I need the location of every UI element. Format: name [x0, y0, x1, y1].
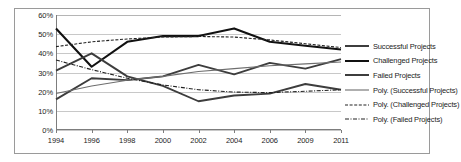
x-tick-label: 1994 — [48, 136, 64, 145]
x-tick-label: 2006 — [262, 136, 278, 145]
legend-line-icon — [345, 41, 369, 51]
x-tick-label: 1996 — [83, 136, 99, 145]
legend-label: Challenged Projects — [373, 56, 437, 65]
x-tick-mark — [234, 130, 235, 133]
legend-item[interactable]: Failed Projects — [345, 68, 461, 83]
y-tick-label: 10% — [38, 106, 53, 115]
x-tick-mark — [270, 130, 271, 133]
legend-item[interactable]: Poly. (Failed Projects) — [345, 112, 461, 127]
x-tick-label: 2002 — [190, 136, 206, 145]
x-tick-mark — [163, 130, 164, 133]
legend-line-icon — [345, 100, 369, 110]
plot-area: 0%10%20%30%40%50%60% 1994199619982000200… — [56, 15, 341, 130]
legend-label: Poly. (Failed Projects) — [373, 115, 442, 124]
legend-line-icon — [345, 56, 369, 66]
x-tick-mark — [305, 130, 306, 133]
plot-wrapper: 0%10%20%30%40%50%60% 1994199619982000200… — [15, 9, 345, 155]
legend-label: Failed Projects — [373, 71, 420, 80]
y-tick-label: 0% — [42, 126, 53, 135]
y-tick-label: 60% — [38, 11, 53, 20]
legend-label: Successful Projects — [373, 42, 436, 51]
series-line — [56, 59, 341, 99]
legend-line-icon — [345, 85, 369, 95]
y-tick-label: 40% — [38, 49, 53, 58]
x-tick-label: 2000 — [155, 136, 171, 145]
x-tick-mark — [92, 130, 93, 133]
x-tick-label: 2004 — [226, 136, 242, 145]
y-tick-label: 20% — [38, 87, 53, 96]
chart-legend: Successful ProjectsChallenged ProjectsFa… — [345, 39, 461, 127]
x-tick-label: 2009 — [297, 136, 313, 145]
legend-item[interactable]: Successful Projects — [345, 39, 461, 54]
chart-frame: 0%10%20%30%40%50%60% 1994199619982000200… — [14, 8, 430, 154]
x-tick-mark — [199, 130, 200, 133]
legend-item[interactable]: Poly. (Successful Projects) — [345, 83, 461, 98]
x-tick-label: 1998 — [119, 136, 135, 145]
y-tick-label: 30% — [38, 68, 53, 77]
series-line — [56, 28, 341, 66]
x-tick-mark — [56, 130, 57, 133]
x-tick-mark — [127, 130, 128, 133]
series-lines — [56, 15, 341, 130]
x-tick-label: 2011 — [333, 136, 349, 145]
y-tick-label: 50% — [38, 30, 53, 39]
legend-label: Poly. (Successful Projects) — [373, 86, 458, 95]
legend-item[interactable]: Poly. (Challenged Projects) — [345, 97, 461, 112]
legend-line-icon — [345, 70, 369, 80]
x-tick-mark — [341, 130, 342, 133]
legend-item[interactable]: Challenged Projects — [345, 54, 461, 69]
legend-line-icon — [345, 114, 369, 124]
legend-label: Poly. (Challenged Projects) — [373, 100, 459, 109]
